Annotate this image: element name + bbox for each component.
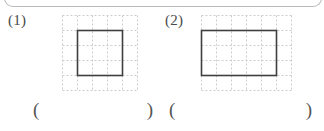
figure-2 <box>199 13 294 93</box>
answer-blank-1[interactable]: ( ) <box>4 98 159 122</box>
grid-dashed-lines-1 <box>63 16 138 91</box>
shape-square-1 <box>78 31 123 76</box>
answer-1-open-paren: ( <box>33 98 39 122</box>
shape-rectangle-2 <box>202 31 277 76</box>
answer-blank-2[interactable]: ( ) <box>161 98 320 122</box>
top-divider-rule <box>4 0 322 7</box>
answer-1-close-paren: ) <box>147 98 153 122</box>
worksheet-page: (1) <box>0 0 324 131</box>
figure-1 <box>60 13 140 93</box>
answer-2-close-paren: ) <box>306 98 312 122</box>
answer-2-open-paren: ( <box>169 98 175 122</box>
problem-label-1: (1) <box>8 13 26 28</box>
figure-1-canvas <box>60 13 140 93</box>
figure-2-canvas <box>199 13 294 93</box>
problem-label-2: (2) <box>165 13 183 28</box>
grid-dashed-lines-2 <box>202 16 292 91</box>
